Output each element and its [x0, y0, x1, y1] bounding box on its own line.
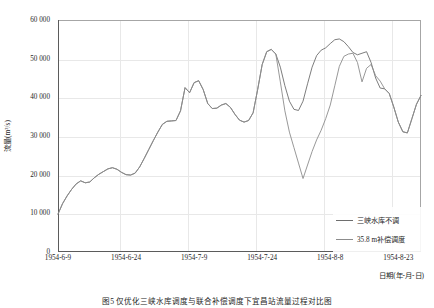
legend-swatch-line [336, 220, 353, 221]
y-tick-label: 50 000 [30, 55, 50, 63]
figure-root: 010 00020 00030 00040 00050 00060 000 19… [0, 0, 434, 308]
legend-item-1: 35.8 m补偿调度 [336, 234, 421, 244]
legend-label: 三峡水库不调 [357, 215, 399, 225]
x-tick-label: 1954-7-9 [181, 254, 207, 262]
chart-legend: 三峡水库不调 35.8 m补偿调度 [333, 207, 421, 252]
y-tick-label: 60 000 [30, 16, 50, 24]
y-tick-label: 10 000 [30, 209, 50, 217]
x-tick-label: 1954-7-24 [247, 254, 277, 262]
legend-swatch-line [336, 239, 353, 240]
y-tick-label: 30 000 [30, 132, 50, 140]
y-axis-title: 流量(m³/s) [1, 120, 12, 152]
figure-caption: 图5 仅优化三峡水库调度与联合补偿调度下宜昌站流量过程对比图 [0, 295, 434, 306]
series-line-sanxia-bu-tiao [58, 39, 421, 214]
y-tick-label: 40 000 [30, 93, 50, 101]
x-axis-tick-labels: 1954-6-91954-6-241954-7-91954-7-241954-8… [0, 254, 434, 268]
x-tick-label: 1954-8-23 [383, 254, 413, 262]
legend-item-0: 三峡水库不调 [336, 215, 421, 225]
x-axis-title: 日期(年-月-日) [0, 269, 424, 280]
x-tick-label: 1954-8-8 [317, 254, 343, 262]
y-tick-label: 20 000 [30, 171, 50, 179]
x-tick-label: 1954-6-9 [45, 254, 71, 262]
x-tick-label: 1954-6-24 [111, 254, 141, 262]
series-line-buchang-diaodu [58, 49, 421, 214]
legend-label: 35.8 m补偿调度 [357, 234, 405, 244]
